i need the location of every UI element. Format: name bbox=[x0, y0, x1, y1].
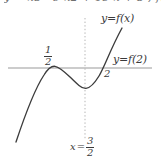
fraction-numerator: 3 bbox=[86, 136, 94, 146]
x-tick-two: 2 bbox=[104, 69, 110, 79]
horizontal-line-label-y-equals-f-of-2: y=f(2) bbox=[113, 54, 147, 65]
curve-y-equals-f-of-x bbox=[16, 28, 122, 142]
fraction-numerator: 1 bbox=[44, 45, 52, 55]
fraction-three-halves: 3 2 bbox=[86, 136, 94, 158]
fraction-denominator: 2 bbox=[44, 57, 52, 67]
vertical-line-label-x-equals-three-halves: x = 3 2 bbox=[70, 136, 94, 158]
graph-figure: y = x3 - 9 x2 + 15 x + 3 ; f(2) = 2 - 3 … bbox=[0, 0, 161, 163]
fraction-one-half: 1 2 bbox=[44, 45, 52, 67]
curve-label-y-equals-f-of-x: y=f(x) bbox=[101, 13, 134, 24]
vertical-line-label-variable: x bbox=[70, 142, 76, 152]
fraction-denominator: 2 bbox=[86, 148, 94, 158]
x-tick-one-half: 1 2 bbox=[44, 45, 52, 67]
vertical-line-label-equals: = bbox=[77, 142, 85, 152]
